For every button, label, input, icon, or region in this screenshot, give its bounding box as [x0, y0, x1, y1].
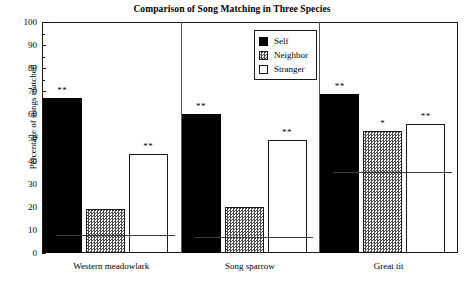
significance-marker: ** [406, 113, 445, 119]
chart-title: Comparison of Song Matching in Three Spe… [0, 4, 464, 14]
y-tick-label: 60 [7, 110, 37, 119]
y-tick-mark [42, 68, 46, 69]
chart-legend: SelfNeighborStranger [254, 30, 317, 80]
bar-self[interactable] [182, 114, 221, 253]
y-tick-label: 40 [7, 157, 37, 166]
white-square-icon [259, 65, 268, 74]
significance-marker: ** [129, 143, 168, 149]
y-tick-mark-minor [42, 34, 45, 35]
x-axis-group-label: Western meadowlark [42, 261, 181, 271]
y-tick-label: 50 [7, 134, 37, 143]
y-tick-label: 0 [7, 249, 37, 258]
y-tick-label: 30 [7, 180, 37, 189]
y-tick-label: 90 [7, 41, 37, 50]
bar-self[interactable] [43, 98, 82, 253]
significance-marker: ** [43, 87, 82, 93]
bar-stranger[interactable] [406, 124, 445, 253]
significance-marker: ** [320, 83, 359, 89]
y-tick-mark-minor [42, 57, 45, 58]
y-tick-label: 70 [7, 87, 37, 96]
reference-line [56, 235, 175, 236]
black-square-icon [259, 37, 268, 46]
bar-neighbor[interactable] [225, 207, 264, 253]
legend-item[interactable]: Self [259, 34, 308, 48]
bar-self[interactable] [320, 94, 359, 253]
y-tick-label: 10 [7, 226, 37, 235]
legend-item-label: Self [274, 36, 289, 46]
significance-marker: ** [268, 129, 307, 135]
checkered-square-icon [259, 51, 268, 60]
y-tick-mark [42, 22, 46, 23]
legend-item-label: Neighbor [274, 50, 308, 60]
bar-stranger[interactable] [129, 154, 168, 253]
y-tick-mark [42, 253, 46, 254]
y-tick-label: 80 [7, 64, 37, 73]
bar-neighbor[interactable] [363, 131, 402, 253]
bar-neighbor[interactable] [86, 209, 125, 253]
legend-item-label: Stranger [274, 64, 305, 74]
y-tick-label: 20 [7, 203, 37, 212]
significance-marker: ** [182, 103, 221, 109]
y-tick-mark-minor [42, 80, 45, 81]
chart-figure: Comparison of Song Matching in Three Spe… [0, 0, 464, 282]
significance-marker: * [363, 120, 402, 126]
reference-line [333, 172, 452, 173]
x-axis-group-label: Song sparrow [181, 261, 320, 271]
reference-line [195, 237, 314, 238]
legend-item[interactable]: Stranger [259, 62, 308, 76]
x-axis-group-label: Great tit [319, 261, 458, 271]
y-tick-mark [42, 45, 46, 46]
y-tick-label: 100 [7, 18, 37, 27]
legend-item[interactable]: Neighbor [259, 48, 308, 62]
